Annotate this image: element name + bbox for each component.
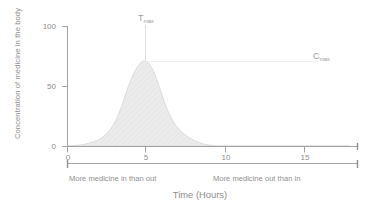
chart-canvas: Concentration of medicine in the body 10… <box>0 0 371 208</box>
t-max-label: Tmax <box>138 13 154 23</box>
t-max-base: T <box>138 13 144 23</box>
elimination-phase-label: More medicine out than in <box>213 174 300 183</box>
x-axis-title: Time (Hours) <box>140 189 260 200</box>
x-tick-label-15: 15 <box>295 153 315 162</box>
concentration-area <box>67 61 350 146</box>
absorption-phase-label: More medicine in than out <box>69 174 156 183</box>
x-tick-label-5: 5 <box>136 153 156 162</box>
t-max-subscript: max <box>144 18 154 24</box>
y-axis-title: Concentration of medicine in the body <box>13 4 22 144</box>
c-max-base: C <box>313 51 320 61</box>
c-max-label: Cmax <box>313 51 330 61</box>
y-tick-label-50: 50 <box>30 82 56 91</box>
chart-svg <box>0 0 371 208</box>
c-max-subscript: max <box>320 56 330 62</box>
x-tick-label-10: 10 <box>216 153 236 162</box>
x-tick-label-0: 0 <box>58 153 78 162</box>
y-tick-label-100: 100 <box>30 22 56 31</box>
y-tick-label-0: 0 <box>30 142 56 151</box>
